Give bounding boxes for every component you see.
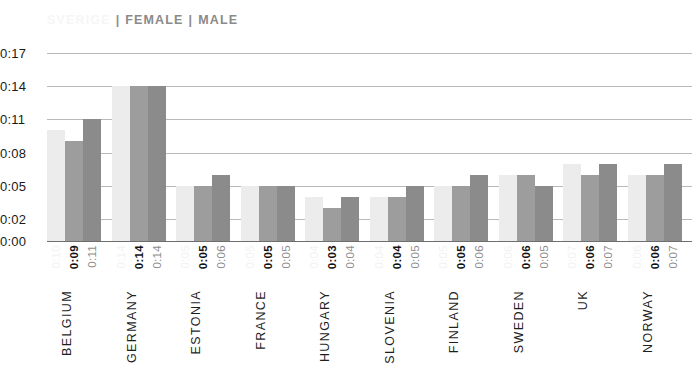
value-label-group: 0:040:040:05 <box>370 245 435 287</box>
category-label: BELGIUM <box>47 290 112 386</box>
value-label-male: 0:05 <box>535 245 553 287</box>
value-label-group: 0:050:050:06 <box>176 245 241 287</box>
bar-group <box>563 53 628 241</box>
bar-group <box>47 53 112 241</box>
value-label-male: 0:07 <box>599 245 617 287</box>
bar-group <box>305 53 370 241</box>
category-label: NORWAY <box>628 290 693 386</box>
value-label-female: 0:03 <box>323 245 341 287</box>
bar-female <box>323 208 341 241</box>
value-label-female: 0:06 <box>581 245 599 287</box>
bar-female <box>259 186 277 241</box>
bar-group <box>628 53 693 241</box>
value-label-sverige: 0:07 <box>563 245 581 287</box>
y-axis-tick-label: 0:17 <box>0 46 41 61</box>
legend-separator-2: | <box>189 13 194 27</box>
value-label-group: 0:050:050:05 <box>241 245 306 287</box>
value-label-group: 0:060:060:05 <box>499 245 564 287</box>
value-label-sverige: 0:06 <box>499 245 517 287</box>
value-label-group: 0:070:060:07 <box>563 245 628 287</box>
bar-group <box>499 53 564 241</box>
value-label-female: 0:06 <box>646 245 664 287</box>
bar-female <box>452 186 470 241</box>
legend-item-male: MALE <box>198 13 238 27</box>
value-label-male: 0:05 <box>277 245 295 287</box>
y-axis-tick-label: 0:11 <box>0 112 41 127</box>
value-label-sverige: 0:10 <box>47 245 65 287</box>
bar-female <box>65 141 83 241</box>
value-label-sverige: 0:05 <box>176 245 194 287</box>
category-label: GERMANY <box>112 290 177 386</box>
bar-female <box>517 175 535 241</box>
bar-female <box>581 175 599 241</box>
y-axis-tick-label: 0:14 <box>0 79 41 94</box>
bar-male <box>406 186 424 241</box>
bar-sverige <box>563 164 581 241</box>
y-axis-tick-label: 0:02 <box>0 211 41 226</box>
bar-sverige <box>176 186 194 241</box>
category-label: FINLAND <box>434 290 499 386</box>
bar-sverige <box>305 197 323 241</box>
value-label-female: 0:05 <box>259 245 277 287</box>
bar-male <box>535 186 553 241</box>
legend-item-female: FEMALE <box>125 13 183 27</box>
value-label-sverige: 0:06 <box>628 245 646 287</box>
bar-group <box>370 53 435 241</box>
value-label-sverige: 0:14 <box>112 245 130 287</box>
y-axis-tick-label: 0:08 <box>0 145 41 160</box>
category-label: ESTONIA <box>176 290 241 386</box>
value-label-male: 0:06 <box>470 245 488 287</box>
bar-sverige <box>112 86 130 241</box>
value-label-male: 0:11 <box>83 245 101 287</box>
category-label: SLOVENIA <box>370 290 435 386</box>
value-label-group: 0:100:090:11 <box>47 245 112 287</box>
bar-male <box>341 197 359 241</box>
bar-group <box>241 53 306 241</box>
bar-male <box>148 86 166 241</box>
bar-sverige <box>241 186 259 241</box>
bar-male <box>277 186 295 241</box>
bar-sverige <box>628 175 646 241</box>
bar-sverige <box>47 130 65 241</box>
gridline <box>47 241 692 242</box>
value-label-male: 0:14 <box>148 245 166 287</box>
value-label-male: 0:04 <box>341 245 359 287</box>
value-labels: 0:100:090:110:140:140:140:050:050:060:05… <box>47 245 692 287</box>
category-label: SWEDEN <box>499 290 564 386</box>
bar-male <box>599 164 617 241</box>
value-label-female: 0:14 <box>130 245 148 287</box>
bar-sverige <box>370 197 388 241</box>
plot-area <box>47 53 692 241</box>
category-label: UK <box>563 290 628 386</box>
y-axis-tick-label: 0:00 <box>0 234 41 249</box>
bar-group <box>176 53 241 241</box>
value-label-sverige: 0:04 <box>370 245 388 287</box>
value-label-group: 0:140:140:14 <box>112 245 177 287</box>
value-label-female: 0:05 <box>452 245 470 287</box>
category-label: HUNGARY <box>305 290 370 386</box>
bar-group <box>112 53 177 241</box>
bar-male <box>664 164 682 241</box>
bar-male <box>470 175 488 241</box>
bar-female <box>194 186 212 241</box>
value-label-male: 0:06 <box>212 245 230 287</box>
bar-female <box>130 86 148 241</box>
category-label: FRANCE <box>241 290 306 386</box>
bar-sverige <box>434 186 452 241</box>
value-label-male: 0:05 <box>406 245 424 287</box>
y-axis-tick-label: 0:05 <box>0 178 41 193</box>
value-label-group: 0:050:050:06 <box>434 245 499 287</box>
legend-item-sverige: SVERIGE <box>47 13 111 27</box>
bar-group <box>434 53 499 241</box>
bar-female <box>388 197 406 241</box>
value-label-sverige: 0:04 <box>305 245 323 287</box>
value-label-sverige: 0:05 <box>241 245 259 287</box>
value-label-female: 0:09 <box>65 245 83 287</box>
legend-separator-1: | <box>116 13 121 27</box>
chart-legend: SVERIGE | FEMALE | MALE <box>47 11 238 29</box>
value-label-female: 0:06 <box>517 245 535 287</box>
bar-chart: SVERIGE | FEMALE | MALE 0:170:140:110:08… <box>0 0 698 391</box>
bar-male <box>83 119 101 241</box>
value-label-group: 0:040:030:04 <box>305 245 370 287</box>
value-label-female: 0:05 <box>194 245 212 287</box>
